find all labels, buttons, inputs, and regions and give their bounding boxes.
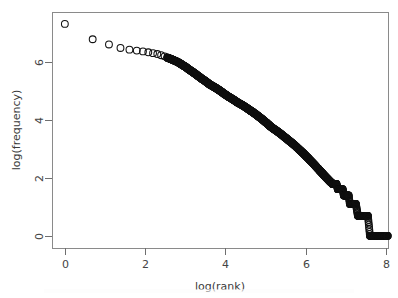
chart-canvas: 02468 0246 log(rank) log(frequency) <box>0 0 398 298</box>
x-tick-label: 8 <box>383 258 390 271</box>
x-tick-label: 2 <box>142 258 149 271</box>
y-axis-title: log(frequency) <box>10 90 23 171</box>
x-tick-label: 6 <box>303 258 310 271</box>
y-tick-label: 6 <box>33 59 46 66</box>
y-tick-label: 4 <box>33 117 46 124</box>
x-tick-label: 0 <box>62 258 69 271</box>
y-tick-label: 0 <box>33 233 46 240</box>
zipf-plot-figure: 02468 0246 log(rank) log(frequency) <box>0 0 398 298</box>
x-tick-label: 4 <box>222 258 229 271</box>
y-tick-label: 2 <box>33 175 46 182</box>
page-artifact <box>44 289 354 293</box>
chart-background <box>0 0 398 298</box>
